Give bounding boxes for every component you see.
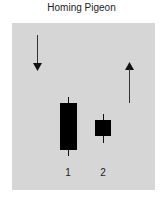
diagram-panel [12, 23, 155, 190]
candle-2-body [95, 120, 111, 136]
diagram-title: Homing Pigeon [0, 2, 163, 13]
down-arrow-icon [33, 63, 42, 71]
reversal-arrow-shaft [129, 69, 130, 103]
candle-1-body [60, 103, 77, 150]
candle-2-label: 2 [100, 167, 106, 178]
downtrend-arrow-shaft [37, 35, 38, 65]
candle-1-label: 1 [65, 167, 71, 178]
